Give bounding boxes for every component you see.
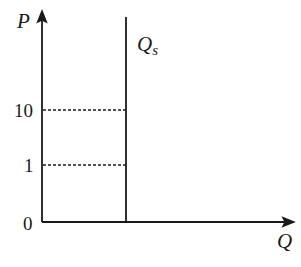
supply-label-main: Q <box>137 32 152 56</box>
x-axis-label: Q <box>277 229 292 253</box>
supply-diagram: P Q 10 1 0 Qs <box>0 0 301 267</box>
tick-label-1: 1 <box>24 155 34 176</box>
y-axis-label: P <box>16 9 30 33</box>
tick-label-10: 10 <box>14 100 33 121</box>
supply-curve-label: Qs <box>137 32 158 58</box>
supply-label-sub: s <box>152 42 158 58</box>
origin-label: 0 <box>23 213 33 234</box>
